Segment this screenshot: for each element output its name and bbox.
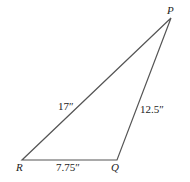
triangle-pqr xyxy=(22,18,171,160)
triangle-figure xyxy=(0,0,190,182)
vertex-label-q: Q xyxy=(111,162,119,173)
side-label-pr: 17″ xyxy=(58,101,74,112)
vertex-label-r: R xyxy=(16,162,23,173)
vertex-label-p: P xyxy=(167,5,174,16)
side-label-rq: 7.75″ xyxy=(56,162,80,173)
side-label-pq: 12.5″ xyxy=(140,104,164,115)
